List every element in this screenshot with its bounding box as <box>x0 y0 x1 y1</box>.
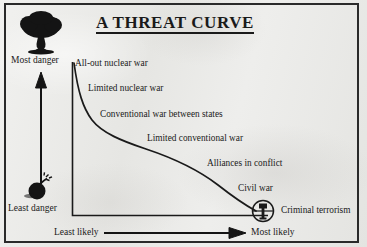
curve-annotation-alliances-in-conflict: Alliances in conflict <box>207 159 282 168</box>
mushroom-cloud-icon <box>20 11 62 54</box>
curve-annotation-civil-war: Civil war <box>238 184 273 193</box>
x-axis-right-label: Most likely <box>251 228 295 238</box>
x-axis-left-label: Least likely <box>54 228 99 238</box>
y-axis-bottom-label: Least danger <box>8 204 57 214</box>
bomb-in-circle-icon <box>253 201 274 222</box>
bomb-icon <box>24 172 52 199</box>
curve-annotation-limited-conventional-war: Limited conventional war <box>147 134 243 143</box>
likelihood-axis-arrow <box>104 228 246 239</box>
curve-annotation-conventional-war-between-states: Conventional war between states <box>100 110 223 119</box>
y-axis-top-label: Most danger <box>11 56 59 66</box>
danger-axis-arrow <box>36 72 47 184</box>
threat-curve-figure: A THREAT CURVE <box>0 0 367 247</box>
curve-annotation-criminal-terrorism: Criminal terrorism <box>281 206 350 215</box>
curve-annotation-all-out-nuclear-war: All-out nuclear war <box>75 59 148 68</box>
curve-annotation-limited-nuclear-war: Limited nuclear war <box>88 84 163 93</box>
